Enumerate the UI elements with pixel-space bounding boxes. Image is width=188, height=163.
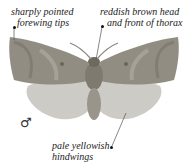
annotation-forewing-tips: sharply pointed forewing tips xyxy=(11,6,74,28)
annotation-hindwings: pale yellowish hindwings xyxy=(52,140,110,162)
male-symbol: ♂ xyxy=(20,115,32,130)
annotation-dot xyxy=(110,146,113,149)
moth-abdomen xyxy=(87,88,101,120)
annotation-head-thorax: reddish brown head and front of thorax xyxy=(104,6,182,28)
